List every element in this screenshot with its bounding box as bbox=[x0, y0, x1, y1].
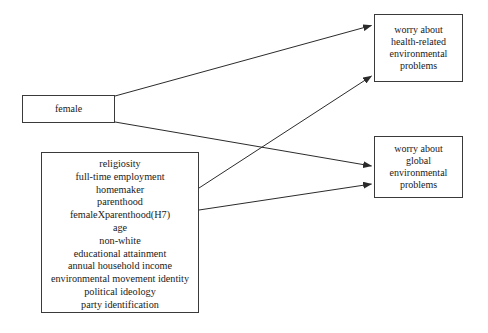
node-global-line-2: environmental bbox=[390, 167, 448, 179]
control-variable-item: femaleXparenthood(H7) bbox=[70, 209, 170, 222]
node-health-line-0: worry about bbox=[394, 24, 443, 36]
node-global-line-0: worry about bbox=[394, 143, 443, 155]
control-variable-item: full-time employment bbox=[75, 171, 164, 184]
control-variable-item: non-white bbox=[99, 235, 140, 248]
node-health-line-1: health-related bbox=[391, 36, 446, 48]
control-variable-item: party identification bbox=[81, 299, 159, 312]
node-control-variables: religiosity full-time employment homemak… bbox=[41, 152, 199, 313]
node-health-line-3: problems bbox=[400, 60, 437, 72]
control-variable-item: environmental movement identity bbox=[51, 273, 189, 286]
node-global-line-3: problems bbox=[400, 179, 437, 191]
node-female-line-0: female bbox=[55, 103, 82, 115]
edge-controls-to-health bbox=[199, 76, 372, 188]
node-global-line-1: global bbox=[406, 155, 431, 167]
edge-controls-to-global bbox=[199, 184, 372, 210]
node-health-related-outcome: worry about health-related environmental… bbox=[374, 14, 463, 82]
edge-female-to-health bbox=[115, 26, 372, 97]
control-variable-item: political ideology bbox=[84, 286, 156, 299]
control-variable-item: age bbox=[113, 222, 127, 235]
node-female: female bbox=[22, 95, 115, 123]
control-variable-item: parenthood bbox=[97, 196, 143, 209]
node-health-line-2: environmental bbox=[390, 48, 448, 60]
node-global-outcome: worry about global environmental problem… bbox=[374, 136, 463, 198]
control-variable-item: annual household income bbox=[68, 260, 172, 273]
control-variable-item: educational attainment bbox=[74, 248, 167, 261]
control-variable-item: homemaker bbox=[96, 184, 144, 197]
control-variable-item: religiosity bbox=[99, 158, 140, 171]
